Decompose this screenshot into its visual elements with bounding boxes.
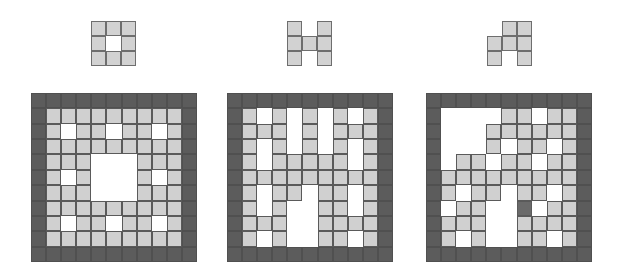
filled-cell — [562, 170, 577, 185]
empty-cell — [122, 185, 137, 200]
empty-cell — [486, 231, 501, 246]
filled-cell — [302, 154, 317, 169]
filled-cell — [562, 201, 577, 216]
empty-cell — [106, 216, 121, 231]
filled-cell — [46, 108, 61, 123]
pattern-cell — [287, 51, 302, 66]
border-cell — [91, 93, 106, 108]
filled-cell — [46, 139, 61, 154]
border-cell — [378, 185, 393, 200]
pattern-cell — [502, 36, 517, 51]
empty-cell — [302, 201, 317, 216]
border-cell — [426, 247, 441, 262]
border-cell — [46, 93, 61, 108]
empty-cell — [456, 231, 471, 246]
filled-cell — [547, 170, 562, 185]
border-cell — [61, 93, 76, 108]
border-cell — [333, 247, 348, 262]
filled-cell — [318, 154, 333, 169]
filled-cell — [137, 108, 152, 123]
empty-cell — [152, 216, 167, 231]
filled-cell — [106, 108, 121, 123]
pattern-cell — [487, 36, 502, 51]
filled-cell — [532, 216, 547, 231]
filled-cell — [272, 139, 287, 154]
filled-cell — [242, 170, 257, 185]
grid-1 — [31, 93, 197, 262]
filled-cell — [122, 231, 137, 246]
empty-cell — [456, 108, 471, 123]
border-cell — [182, 231, 197, 246]
filled-cell — [76, 139, 91, 154]
pattern-cell — [106, 51, 121, 66]
border-cell — [167, 93, 182, 108]
filled-cell — [137, 231, 152, 246]
empty-cell — [348, 139, 363, 154]
pattern-cell — [517, 21, 532, 36]
border-cell — [227, 185, 242, 200]
empty-cell — [456, 139, 471, 154]
border-cell — [577, 108, 592, 123]
filled-cell — [363, 231, 378, 246]
border-cell — [348, 247, 363, 262]
border-cell — [577, 154, 592, 169]
filled-cell — [486, 185, 501, 200]
border-cell — [517, 247, 532, 262]
filled-cell — [562, 124, 577, 139]
filled-cell — [363, 185, 378, 200]
border-cell — [532, 93, 547, 108]
filled-cell — [242, 154, 257, 169]
empty-cell — [287, 216, 302, 231]
filled-cell — [486, 139, 501, 154]
empty-cell — [441, 108, 456, 123]
filled-cell — [137, 216, 152, 231]
empty-cell — [501, 139, 516, 154]
filled-cell — [152, 201, 167, 216]
filled-cell — [152, 231, 167, 246]
border-cell — [441, 247, 456, 262]
filled-cell — [501, 124, 516, 139]
filled-cell — [272, 108, 287, 123]
filled-cell — [76, 108, 91, 123]
border-cell — [501, 247, 516, 262]
border-cell — [378, 93, 393, 108]
pattern-cell — [302, 36, 317, 51]
filled-cell — [441, 216, 456, 231]
filled-cell — [167, 139, 182, 154]
filled-cell — [333, 139, 348, 154]
empty-cell — [348, 231, 363, 246]
empty-cell — [471, 139, 486, 154]
border-cell — [577, 216, 592, 231]
border-cell — [577, 201, 592, 216]
filled-cell — [318, 185, 333, 200]
empty-cell — [287, 124, 302, 139]
filled-cell — [242, 185, 257, 200]
filled-cell — [46, 124, 61, 139]
border-cell — [577, 124, 592, 139]
filled-cell — [152, 139, 167, 154]
filled-cell — [76, 231, 91, 246]
border-cell — [106, 247, 121, 262]
empty-cell — [257, 185, 272, 200]
border-cell — [577, 170, 592, 185]
empty-cell — [257, 231, 272, 246]
filled-cell — [486, 170, 501, 185]
empty-cell — [106, 170, 121, 185]
pattern-cell — [487, 21, 502, 36]
border-cell — [227, 216, 242, 231]
border-cell — [348, 93, 363, 108]
filled-cell — [333, 108, 348, 123]
empty-cell — [501, 231, 516, 246]
border-cell — [378, 201, 393, 216]
filled-cell — [106, 139, 121, 154]
filled-cell — [471, 216, 486, 231]
border-cell — [31, 216, 46, 231]
filled-cell — [333, 124, 348, 139]
filled-cell — [61, 231, 76, 246]
border-cell — [182, 124, 197, 139]
empty-cell — [91, 170, 106, 185]
border-cell — [272, 93, 287, 108]
filled-cell — [333, 216, 348, 231]
border-cell — [182, 216, 197, 231]
filled-cell — [333, 231, 348, 246]
